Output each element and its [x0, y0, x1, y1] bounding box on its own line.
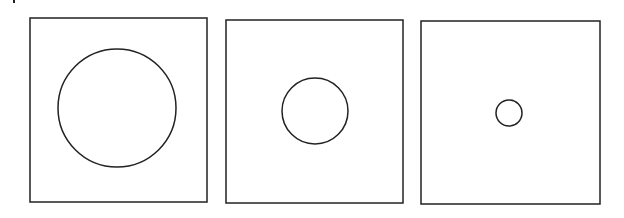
small-circle [496, 100, 522, 126]
square-frame [30, 18, 207, 202]
medium-circle [282, 78, 348, 144]
panel-small-circle [421, 21, 600, 204]
corner-mark [13, 0, 15, 3]
panel-medium-circle [226, 20, 403, 203]
large-circle [58, 49, 176, 167]
panel-large-circle [30, 18, 207, 202]
square-frame [226, 20, 403, 203]
diagram-canvas [0, 0, 624, 218]
square-frame [421, 21, 600, 204]
